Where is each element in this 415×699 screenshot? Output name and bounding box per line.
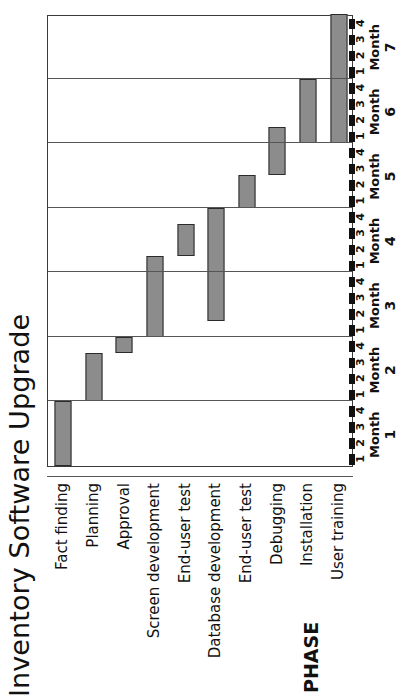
week-tick-label: 1 xyxy=(353,451,368,467)
gantt-bar[interactable] xyxy=(147,256,164,337)
week-tick-label: 4 xyxy=(353,402,368,418)
week-tick-label: 3 xyxy=(353,160,368,176)
phase-label: Screen development xyxy=(145,483,163,638)
month-gridline xyxy=(48,271,352,272)
month-gridline xyxy=(48,207,352,208)
week-tick-labels: 1234 xyxy=(353,338,368,403)
month-word-label: Month xyxy=(367,273,383,338)
gantt-row xyxy=(109,16,140,466)
week-tick-label: 1 xyxy=(353,193,368,209)
week-tick-label: 2 xyxy=(353,112,368,128)
month-gridline xyxy=(48,142,352,143)
month-axis-cell: 1234Month4 xyxy=(353,209,399,274)
month-number-label: 6 xyxy=(382,80,398,145)
gantt-row xyxy=(170,16,201,466)
week-tick-label: 1 xyxy=(353,257,368,273)
month-axis-cell: 1234Month7 xyxy=(353,15,399,80)
week-tick-label: 4 xyxy=(353,209,368,225)
gantt-bar[interactable] xyxy=(330,14,347,143)
month-word-label: Month xyxy=(367,209,383,274)
gantt-row xyxy=(201,16,232,466)
week-tick-label: 3 xyxy=(353,31,368,47)
gantt-row xyxy=(140,16,171,466)
week-tick-label: 1 xyxy=(353,63,368,79)
chart-title: Inventory Software Upgrade xyxy=(4,0,46,699)
week-tick-label: 4 xyxy=(353,144,368,160)
week-tick-label: 1 xyxy=(353,386,368,402)
month-word-label: Month xyxy=(367,80,383,145)
month-word-label: Month xyxy=(367,402,383,467)
gantt-bar[interactable] xyxy=(269,127,286,175)
phase-label: Planning xyxy=(84,483,102,548)
week-tick-label: 1 xyxy=(353,128,368,144)
gantt-bar[interactable] xyxy=(55,401,72,466)
week-tick-label: 2 xyxy=(353,435,368,451)
week-tick-label: 3 xyxy=(353,419,368,435)
month-gridline xyxy=(48,336,352,337)
month-word-label: Month xyxy=(367,144,383,209)
gantt-plot-area xyxy=(47,15,353,467)
gantt-bar[interactable] xyxy=(177,224,194,256)
month-axis-cell: 1234Month5 xyxy=(353,144,399,209)
week-tick-labels: 1234 xyxy=(353,209,368,274)
month-gridline xyxy=(48,400,352,401)
month-gridline xyxy=(48,78,352,79)
phase-label: Approval xyxy=(115,483,133,550)
phase-label: End-user test xyxy=(176,483,194,583)
gantt-row xyxy=(48,16,79,466)
phase-label: Installation xyxy=(298,483,316,566)
month-axis-cell: 1234Month6 xyxy=(353,80,399,145)
month-number-label: 5 xyxy=(382,144,398,209)
month-number-label: 1 xyxy=(382,402,398,467)
week-tick-label: 2 xyxy=(353,176,368,192)
week-tick-label: 3 xyxy=(353,96,368,112)
gantt-bar-rows xyxy=(48,16,352,466)
week-tick-label: 2 xyxy=(353,306,368,322)
week-tick-label: 3 xyxy=(353,289,368,305)
gantt-row xyxy=(79,16,110,466)
gantt-row xyxy=(293,16,324,466)
gantt-bar[interactable] xyxy=(238,175,255,207)
gantt-row xyxy=(262,16,293,466)
week-tick-label: 2 xyxy=(353,241,368,257)
phase-label-list: Fact findingPlanningApprovalScreen devel… xyxy=(47,475,353,699)
week-tick-label: 3 xyxy=(353,354,368,370)
week-tick-label: 1 xyxy=(353,322,368,338)
week-tick-label: 4 xyxy=(353,15,368,31)
phase-label: User training xyxy=(329,483,347,580)
week-tick-label: 4 xyxy=(353,338,368,354)
phase-label: Database development xyxy=(206,483,224,658)
gantt-bar[interactable] xyxy=(85,353,102,401)
week-tick-label: 2 xyxy=(353,47,368,63)
month-word-label: Month xyxy=(367,15,383,80)
gantt-chart-figure: Inventory Software Upgrade PHASE Fact fi… xyxy=(0,0,415,699)
month-axis-cell: 1234Month1 xyxy=(353,402,399,467)
gantt-bar[interactable] xyxy=(300,79,317,144)
week-tick-labels: 1234 xyxy=(353,80,368,145)
week-tick-labels: 1234 xyxy=(353,15,368,80)
gantt-row xyxy=(232,16,263,466)
phase-label: End-user test xyxy=(237,483,255,583)
month-number-label: 2 xyxy=(382,338,398,403)
month-axis-cell: 1234Month3 xyxy=(353,273,399,338)
month-number-label: 3 xyxy=(382,273,398,338)
week-tick-labels: 1234 xyxy=(353,402,368,467)
week-tick-label: 2 xyxy=(353,370,368,386)
phase-label: Fact finding xyxy=(53,483,71,570)
week-tick-labels: 1234 xyxy=(353,144,368,209)
month-number-label: 4 xyxy=(382,209,398,274)
gantt-bar[interactable] xyxy=(116,337,133,353)
phase-label: Debugging xyxy=(268,483,286,565)
week-tick-label: 4 xyxy=(353,80,368,96)
gantt-bar[interactable] xyxy=(208,208,225,321)
month-axis-cell: 1234Month2 xyxy=(353,338,399,403)
week-tick-label: 3 xyxy=(353,225,368,241)
month-number-label: 7 xyxy=(382,15,398,80)
week-tick-labels: 1234 xyxy=(353,273,368,338)
week-tick-label: 4 xyxy=(353,273,368,289)
month-word-label: Month xyxy=(367,338,383,403)
month-axis: 1234Month11234Month21234Month31234Month4… xyxy=(353,15,399,467)
